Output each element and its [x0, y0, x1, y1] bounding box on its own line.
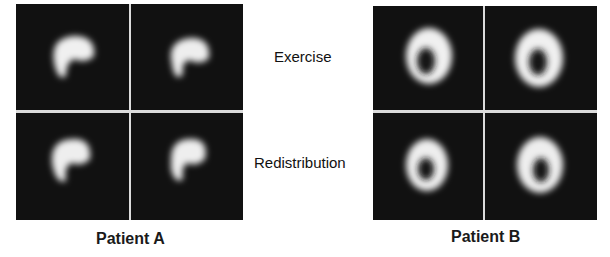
- patient-a-redistribution-view-1: [16, 113, 129, 220]
- ring-scan-image: [373, 6, 483, 110]
- patient-a-redistribution-view-2: [131, 113, 243, 220]
- crescent-scan-image: [16, 4, 129, 110]
- patient-a-exercise-view-2: [131, 4, 243, 110]
- patient-b-redistribution-view-2: [485, 113, 597, 220]
- patient-b-redistribution-view-1: [373, 113, 483, 220]
- crescent-scan-image: [131, 4, 243, 110]
- patient-b-image-grid: [373, 6, 597, 220]
- ring-scan-image: [485, 6, 597, 110]
- crescent-scan-image: [131, 113, 243, 220]
- patient-a-exercise-view-1: [16, 4, 129, 110]
- patient-b-label: Patient B: [451, 228, 520, 246]
- patient-a-image-grid: [16, 4, 243, 220]
- row-label-redistribution: Redistribution: [254, 154, 346, 171]
- patient-a-label: Patient A: [96, 230, 165, 248]
- ring-scan-image: [373, 113, 483, 220]
- row-label-exercise: Exercise: [274, 48, 332, 65]
- crescent-scan-image: [16, 113, 129, 220]
- ring-scan-image: [485, 113, 597, 220]
- patient-b-exercise-view-2: [485, 6, 597, 110]
- patient-b-exercise-view-1: [373, 6, 483, 110]
